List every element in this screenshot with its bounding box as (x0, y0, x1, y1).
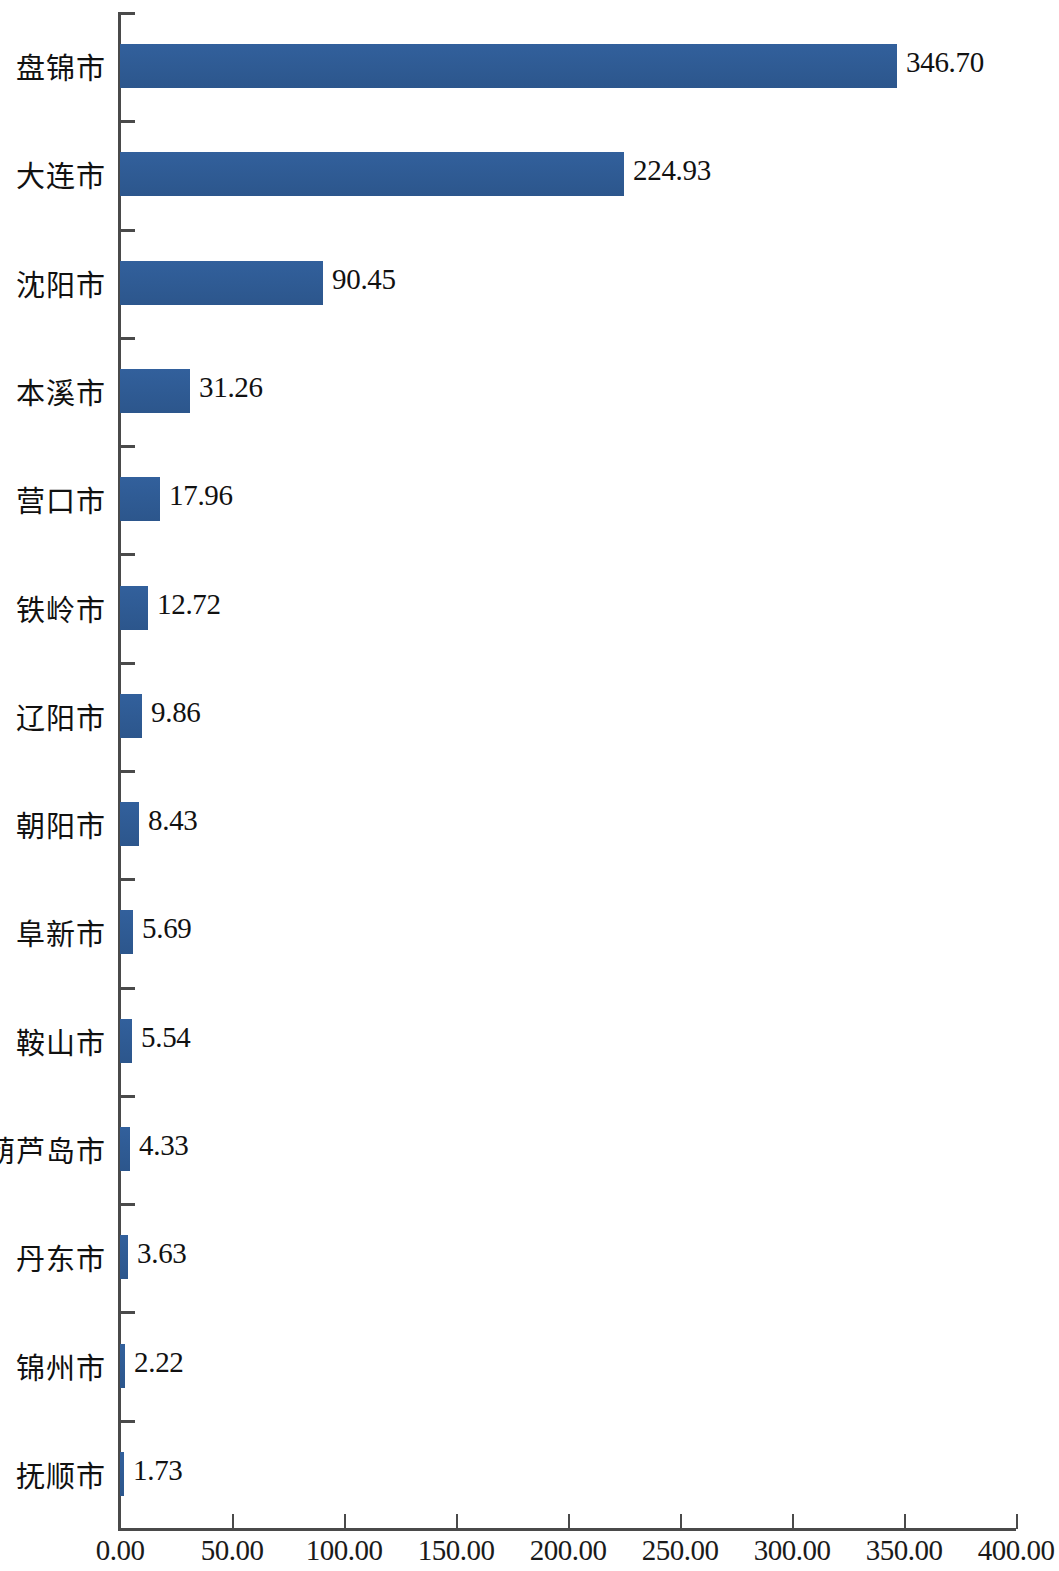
y-axis-tick (121, 1420, 135, 1423)
y-axis-tick (121, 337, 135, 340)
x-axis-tick (456, 1514, 458, 1529)
bar-category-label: 葫芦岛市 (0, 1128, 106, 1170)
bar-value-label: 224.93 (633, 154, 711, 187)
bar-category-label: 鞍山市 (16, 1020, 106, 1062)
bar[interactable] (120, 261, 323, 305)
bar-category-label: 大连市 (16, 153, 106, 195)
bar-value-label: 90.45 (332, 263, 396, 296)
x-axis-tick (232, 1514, 234, 1529)
bar[interactable] (120, 1019, 132, 1063)
bar-value-label: 346.70 (906, 46, 984, 79)
bar-category-label: 营口市 (16, 478, 106, 520)
x-axis-tick-label: 300.00 (732, 1534, 852, 1567)
y-axis-tick (121, 878, 135, 881)
bar-value-label: 5.54 (141, 1021, 191, 1054)
bar[interactable] (120, 152, 624, 196)
x-axis-tick (344, 1514, 346, 1529)
y-axis-tick (121, 120, 135, 123)
x-axis-tick (568, 1514, 570, 1529)
x-axis-tick (792, 1514, 794, 1529)
x-axis-tick-label: 250.00 (620, 1534, 740, 1567)
x-axis-tick-label: 100.00 (284, 1534, 404, 1567)
bar-category-label: 辽阳市 (16, 695, 106, 737)
bar[interactable] (120, 1235, 128, 1279)
bar-category-label: 铁岭市 (16, 587, 106, 629)
bar-category-label: 抚顺市 (16, 1453, 106, 1495)
bar[interactable] (120, 694, 142, 738)
bar[interactable] (120, 910, 133, 954)
y-axis-tick (121, 987, 135, 990)
bar[interactable] (120, 1127, 130, 1171)
bar[interactable] (120, 586, 148, 630)
bar-category-label: 丹东市 (16, 1236, 106, 1278)
bar-category-label: 锦州市 (16, 1345, 106, 1387)
y-axis-tick (121, 1203, 135, 1206)
x-axis-tick-label: 0.00 (60, 1534, 180, 1567)
y-axis-tick (121, 12, 135, 15)
bar[interactable] (120, 802, 139, 846)
bar-value-label: 5.69 (142, 912, 192, 945)
bar-value-label: 1.73 (133, 1454, 183, 1487)
bar-category-label: 本溪市 (16, 370, 106, 412)
x-axis-tick (680, 1514, 682, 1529)
x-axis-tick (904, 1514, 906, 1529)
x-axis-tick-label: 200.00 (508, 1534, 628, 1567)
x-axis-tick-label: 50.00 (172, 1534, 292, 1567)
y-axis-tick (121, 553, 135, 556)
bar-value-label: 4.33 (139, 1129, 189, 1162)
bar-category-label: 阜新市 (16, 911, 106, 953)
x-axis-tick (1016, 1514, 1018, 1529)
bar-value-label: 17.96 (169, 479, 233, 512)
bar-value-label: 9.86 (151, 696, 201, 729)
bar-value-label: 31.26 (199, 371, 263, 404)
bar-category-label: 朝阳市 (16, 803, 106, 845)
bar[interactable] (120, 1452, 124, 1496)
bar-value-label: 2.22 (134, 1346, 184, 1379)
x-axis-line (118, 1528, 1016, 1531)
y-axis-tick (121, 229, 135, 232)
y-axis-tick (121, 770, 135, 773)
bar-value-label: 8.43 (148, 804, 198, 837)
y-axis-tick (121, 445, 135, 448)
bar[interactable] (120, 369, 190, 413)
bar[interactable] (120, 1344, 125, 1388)
x-axis-tick-label: 150.00 (396, 1534, 516, 1567)
y-axis-tick (121, 1311, 135, 1314)
bar[interactable] (120, 44, 897, 88)
bar-category-label: 沈阳市 (16, 262, 106, 304)
bar-category-label: 盘锦市 (16, 45, 106, 87)
x-axis-tick-label: 400.00 (956, 1534, 1059, 1567)
x-axis-tick-label: 350.00 (844, 1534, 964, 1567)
bar-value-label: 3.63 (137, 1237, 187, 1270)
bar[interactable] (120, 477, 160, 521)
y-axis-tick (121, 662, 135, 665)
y-axis-tick (121, 1095, 135, 1098)
bar-value-label: 12.72 (157, 588, 221, 621)
